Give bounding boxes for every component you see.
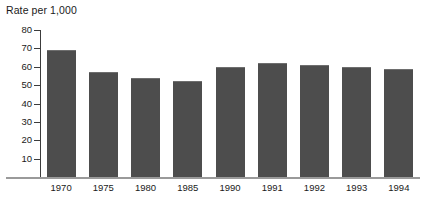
bar bbox=[47, 50, 76, 177]
x-axis-label: 1980 bbox=[125, 182, 167, 193]
bar bbox=[131, 78, 160, 177]
x-axis-label: 1990 bbox=[209, 182, 251, 193]
y-axis-tick bbox=[34, 30, 40, 31]
y-axis-tick-label: 50 bbox=[0, 79, 32, 90]
bar bbox=[173, 81, 202, 177]
y-axis-tick bbox=[34, 104, 40, 105]
x-axis-label: 1993 bbox=[336, 182, 378, 193]
x-axis-label: 1994 bbox=[378, 182, 420, 193]
y-axis-tick-label: 80 bbox=[0, 24, 32, 35]
bar bbox=[216, 67, 245, 177]
x-axis-label: 1992 bbox=[293, 182, 335, 193]
x-axis-label: 1991 bbox=[251, 182, 293, 193]
chart-title: Rate per 1,000 bbox=[6, 4, 77, 16]
bar bbox=[300, 65, 329, 177]
y-axis-tick-label: 40 bbox=[0, 98, 32, 109]
y-axis-tick-label: 70 bbox=[0, 42, 32, 53]
y-axis-tick-label: 10 bbox=[0, 153, 32, 164]
y-axis-tick-label: 20 bbox=[0, 134, 32, 145]
y-axis-tick-label: 30 bbox=[0, 116, 32, 127]
bar bbox=[342, 67, 371, 177]
y-axis-tick bbox=[34, 85, 40, 86]
x-axis-label: 1970 bbox=[40, 182, 82, 193]
y-axis-tick bbox=[34, 122, 40, 123]
x-axis-baseline bbox=[6, 177, 420, 179]
bar-chart: Rate per 1,000 8070605040302010 19701975… bbox=[0, 0, 426, 203]
bar bbox=[258, 63, 287, 177]
x-axis-label: 1975 bbox=[82, 182, 124, 193]
x-axis-label: 1985 bbox=[167, 182, 209, 193]
y-axis-tick bbox=[34, 159, 40, 160]
y-axis-tick bbox=[34, 140, 40, 141]
bar bbox=[384, 69, 413, 177]
bar bbox=[89, 72, 118, 177]
y-axis-tick bbox=[34, 67, 40, 68]
y-axis-tick bbox=[34, 48, 40, 49]
y-axis-tick-label: 60 bbox=[0, 61, 32, 72]
